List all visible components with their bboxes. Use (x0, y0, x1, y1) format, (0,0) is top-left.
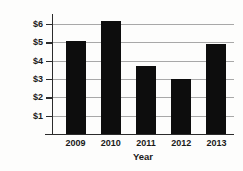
gridline (52, 24, 234, 25)
plot-area: $1$2$3$4$5$6 20092010201120122013 (52, 14, 234, 135)
x-axis-tick-label: 2013 (196, 138, 236, 148)
x-axis-line (45, 134, 234, 135)
x-axis-tick-label: 2011 (126, 138, 166, 148)
bar (136, 66, 156, 134)
y-axis-tick (46, 61, 53, 62)
bar (171, 79, 191, 134)
bar (66, 41, 86, 134)
y-axis-tick (46, 42, 53, 43)
y-axis-tick-label: $6 (33, 19, 43, 29)
x-axis-tick-label: 2010 (91, 138, 131, 148)
y-axis-tick (46, 24, 53, 25)
y-axis-tick-label: $2 (33, 92, 43, 102)
x-axis-tick-label: 2012 (161, 138, 201, 148)
bar-chart: Sales Revenue in Millions $1$2$3$4$5$6 2… (0, 0, 243, 171)
bar (101, 21, 121, 134)
x-axis-title: Year (52, 151, 234, 162)
y-axis-tick-label: $3 (33, 74, 43, 84)
y-axis-tick (46, 97, 53, 98)
x-axis-tick-label: 2009 (56, 138, 96, 148)
y-axis-tick-label: $4 (33, 56, 43, 66)
bar (206, 44, 226, 134)
y-axis-tick (46, 79, 53, 80)
y-axis-tick-label: $5 (33, 37, 43, 47)
y-axis-tick-label: $1 (33, 111, 43, 121)
y-axis-tick (46, 116, 53, 117)
